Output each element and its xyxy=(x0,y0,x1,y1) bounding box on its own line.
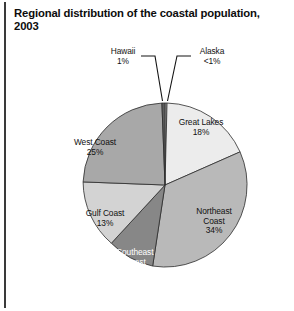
pie-label-hawaii: Hawaii 1% xyxy=(103,47,143,66)
pie-label-alaska: Alaska <1% xyxy=(190,47,234,66)
pie-label-southeast-coast: Southeast Coast 9% xyxy=(107,248,163,277)
pie-chart: Hawaii 1% Alaska <1% Great Lakes 18% Nor… xyxy=(0,0,294,311)
pie-label-great-lakes: Great Lakes 18% xyxy=(168,118,234,137)
alaska-leader-line xyxy=(168,56,192,101)
pie-label-gulf-coast: Gulf Coast 13% xyxy=(74,209,136,228)
pie-label-west-coast: West Coast 25% xyxy=(62,138,128,157)
pie-label-northeast-coast: Northeast Coast 34% xyxy=(184,207,244,236)
chart-figure: Regional distribution of the coastal pop… xyxy=(0,0,294,311)
hawaii-leader-line xyxy=(141,56,163,101)
